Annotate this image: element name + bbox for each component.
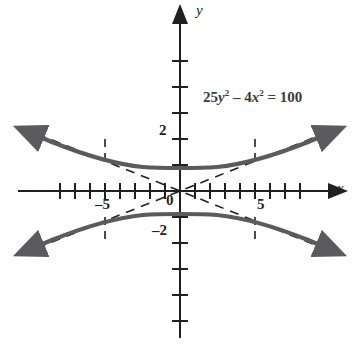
hyperbola-upper-left-arrow [40,137,52,142]
equation-minus: – [233,89,241,105]
equation-label: 25y2 – 4x2 = 100 [203,88,302,106]
x-tick-label-neg5: –5 [95,196,110,213]
hyperbola-figure: y x 0 2 –2 –5 5 25y2 – 4x2 = 100 [0,0,354,351]
equation-equals: = [267,89,276,105]
hyperbola-upper-right-arrow [308,137,320,142]
equation-coef-b: 4 [244,89,252,105]
y-tick-label-2: 2 [159,122,167,139]
hyperbola-lower-left-arrow [40,240,52,245]
equation-coef-a: 25 [203,89,218,105]
equation-rhs: 100 [280,89,303,105]
x-axis-label: x [337,180,344,197]
graph-canvas [0,0,354,351]
equation-exp-y: 2 [225,88,230,98]
y-axis-label: y [196,2,203,19]
equation-var-y: y [218,89,225,105]
hyperbola-lower-right-arrow [308,240,320,245]
origin-label: 0 [166,192,174,209]
x-tick-label-5: 5 [257,196,265,213]
equation-exp-x: 2 [259,88,264,98]
y-tick-label-neg2: –2 [152,222,167,239]
